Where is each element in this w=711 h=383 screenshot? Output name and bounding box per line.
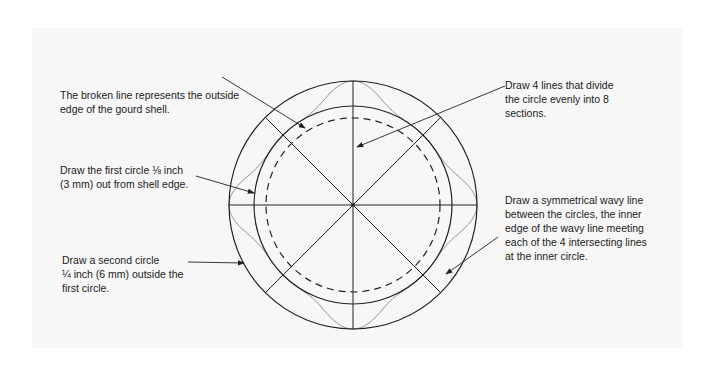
center-point [351, 203, 355, 207]
annotation-second-circle: Draw a second circle ¼ inch (6 mm) outsi… [62, 253, 183, 295]
annotation-first-circle: Draw the first circle ⅛ inch (3 mm) out … [60, 163, 188, 191]
annotation-wavy-line: Draw a symmetrical wavy line between the… [505, 193, 647, 263]
gourd-diagram [0, 0, 711, 383]
annotation-four-lines: Draw 4 lines that divide the circle even… [505, 78, 614, 120]
annotation-broken-line: The broken line represents the outside e… [60, 88, 239, 116]
